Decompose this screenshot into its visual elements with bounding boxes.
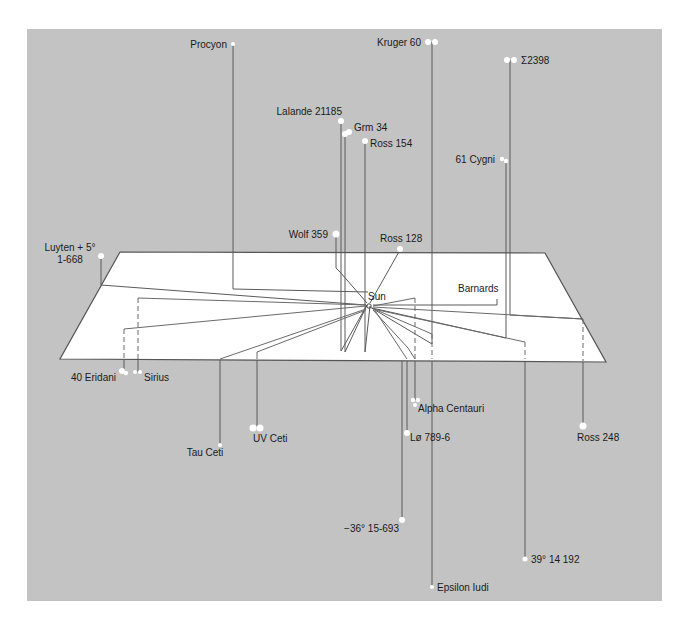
label-lalande: Lalande 21185 (277, 106, 343, 117)
star-map-diagram: Sun Procyon Kruger 60 Σ (0, 0, 690, 625)
star-icon-40-eridani-b (124, 371, 128, 375)
star-icon-uv-ceti-b (257, 425, 264, 432)
label-l-789-6: Lø 789-6 (410, 432, 450, 443)
star-icon-61-cygni-a (500, 157, 504, 161)
label-39-14-192: 39° 14 192 (531, 554, 580, 565)
label-wolf-359: Wolf 359 (289, 229, 329, 240)
star-icon-kruger-60-b (432, 39, 438, 45)
star-icon-alpha-centauri-c (413, 403, 417, 407)
star-icon-ross-128 (397, 246, 403, 252)
label-luyten-line1: Luyten + 5° (45, 242, 96, 253)
star-icon-alpha-centauri-b (416, 398, 420, 402)
star-icon-kruger-60-a (425, 39, 431, 45)
label-sigma-2398: Σ2398 (521, 55, 550, 66)
sun-label: Sun (368, 291, 386, 302)
star-icon-39-14-192 (523, 557, 528, 562)
label-40-eridani: 40 Eridani (71, 372, 116, 383)
star-icon-uv-ceti-a (250, 425, 257, 432)
star-icon-ross-154 (362, 138, 368, 144)
star-icon-sigma-2398-b (511, 57, 517, 63)
label-luyten-line2: 1-668 (57, 254, 83, 265)
label-minus-36: −36° 15-693 (344, 523, 399, 534)
label-kruger-60: Kruger 60 (377, 37, 421, 48)
star-icon-minus-36 (399, 517, 405, 523)
label-uv-ceti: UV Ceti (253, 433, 287, 444)
star-icon-sirius-a (133, 370, 137, 374)
star-icon-ross-248 (580, 423, 587, 430)
label-epsilon-indi: Epsilon Iudi (437, 582, 489, 593)
label-ross-248: Ross 248 (577, 432, 620, 443)
star-icon-sigma-2398-a (504, 57, 510, 63)
label-61-cygni: 61 Cygni (456, 154, 495, 165)
star-icon-sirius-b (138, 370, 142, 374)
star-icon-lalande (338, 118, 344, 124)
star-icon-luyten (98, 253, 104, 259)
label-sirius: Sirius (144, 372, 169, 383)
reference-plane (60, 252, 606, 362)
label-barnards: Barnards (458, 283, 499, 294)
star-icon-epsilon-indi (430, 585, 434, 589)
label-tau-ceti: Tau Ceti (187, 447, 224, 458)
label-ross-128: Ross 128 (380, 233, 423, 244)
star-icon-wolf-359 (333, 231, 340, 238)
label-ross-154: Ross 154 (370, 138, 413, 149)
star-icon-61-cygni-b (504, 159, 508, 163)
star-icon-grm-34-b (346, 129, 352, 135)
star-icon-alpha-centauri-a (411, 398, 415, 402)
label-alpha-centauri: Alpha Centauri (418, 403, 484, 414)
label-grm-34: Grm 34 (354, 122, 388, 133)
star-icon-procyon (231, 42, 235, 46)
label-procyon: Procyon (190, 39, 227, 50)
